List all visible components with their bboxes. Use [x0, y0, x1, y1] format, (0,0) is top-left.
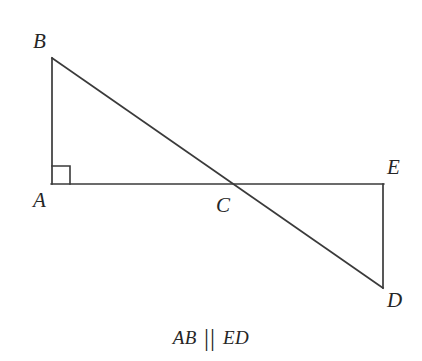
right-angle-marker-at-A — [52, 166, 70, 184]
parallel-symbol-icon: || — [204, 324, 216, 353]
segment-BD — [52, 58, 383, 288]
vertex-label-A: A — [33, 190, 46, 211]
figure-caption: AB||ED — [0, 322, 422, 351]
geometry-canvas — [0, 0, 422, 361]
vertex-label-C: C — [216, 195, 230, 216]
vertex-label-B: B — [33, 31, 46, 52]
geometry-figure: B A C E D AB||ED — [0, 0, 422, 361]
vertex-label-D: D — [387, 290, 402, 311]
caption-right-term: ED — [223, 327, 249, 348]
vertex-label-E: E — [387, 157, 400, 178]
caption-left-term: AB — [173, 327, 197, 348]
